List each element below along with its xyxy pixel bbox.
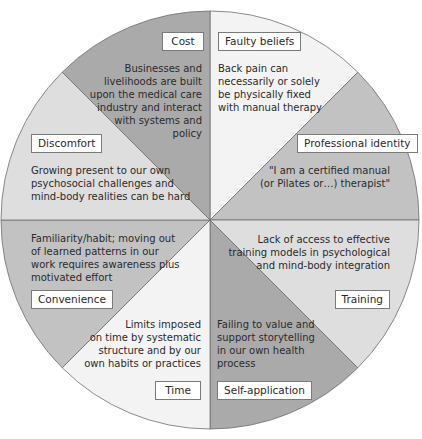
convenience-label: Convenience (31, 290, 113, 309)
time-line: structure and by our (61, 344, 201, 357)
convenience-line: Familiarity/habit; moving out (31, 232, 211, 245)
self-application-line: process (217, 357, 337, 370)
time-description: Limits imposed on time by systematic str… (61, 318, 201, 370)
training-label: Training (335, 290, 390, 309)
training-line: and mind-body integration (210, 259, 390, 272)
cost-line: with systems and (62, 114, 202, 127)
faulty-beliefs-line: Back pain can (218, 62, 348, 75)
faulty-beliefs-line: be physically fixed (218, 88, 348, 101)
cost-label: Cost (162, 32, 204, 51)
faulty-beliefs-label: Faulty beliefs (218, 32, 301, 51)
faulty-beliefs-description: Back pain can necessarily or solely be p… (218, 62, 348, 114)
professional-identity-label: Professional identity (297, 134, 418, 153)
self-application-label: Self-application (217, 381, 312, 400)
self-application-description: Failing to value and support storytellin… (217, 318, 337, 370)
time-line: own habits or practices (61, 357, 201, 370)
time-label: Time (155, 381, 201, 400)
cost-line: Businesses and (62, 62, 202, 75)
self-application-line: in our own health (217, 344, 337, 357)
convenience-line: of learned patterns in our (31, 245, 211, 258)
professional-identity-line: (or Pilates or…) therapist" (230, 177, 390, 190)
training-line: Lack of access to effective (210, 233, 390, 246)
convenience-description: Familiarity/habit; moving out of learned… (31, 232, 211, 284)
training-description: Lack of access to effective training mod… (210, 233, 390, 272)
discomfort-line: mind-body realities can be hard (31, 190, 211, 203)
discomfort-description: Growing present to our own psychosocial … (31, 164, 211, 203)
cost-line: livelihoods are built (62, 75, 202, 88)
faulty-beliefs-line: necessarily or solely (218, 75, 348, 88)
discomfort-label: Discomfort (31, 134, 102, 153)
convenience-line: work requires awareness plus (31, 258, 211, 271)
cost-description: Businesses and livelihoods are built upo… (62, 62, 202, 140)
professional-identity-description: "I am a certified manual (or Pilates or…… (230, 164, 390, 190)
self-application-line: support storytelling (217, 331, 337, 344)
cost-line: upon the medical care (62, 88, 202, 101)
professional-identity-line: "I am a certified manual (230, 164, 390, 177)
time-line: on time by systematic (61, 331, 201, 344)
convenience-line: motivated effort (31, 271, 211, 284)
discomfort-line: psychosocial challenges and (31, 177, 211, 190)
faulty-beliefs-line: with manual therapy (218, 101, 348, 114)
cost-line: industry and interact (62, 101, 202, 114)
training-line: training models in psychological (210, 246, 390, 259)
self-application-line: Failing to value and (217, 318, 337, 331)
discomfort-line: Growing present to our own (31, 164, 211, 177)
time-line: Limits imposed (61, 318, 201, 331)
